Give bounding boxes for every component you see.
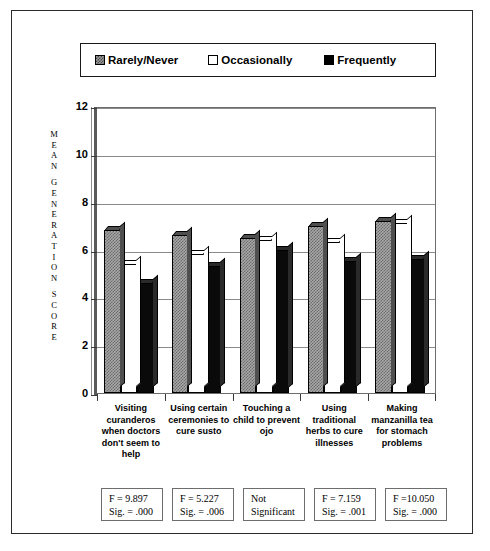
category-label-line: manzanilla tea <box>364 415 440 427</box>
category-label-line: don't seem to <box>93 438 169 450</box>
category-label-line: illnesses <box>296 438 372 450</box>
y-caption-letter: N <box>46 161 62 172</box>
bar-side-face <box>255 229 260 387</box>
category-label-line: for stomach <box>364 426 440 438</box>
x-axis-tick <box>300 394 301 401</box>
significance-box: F = 7.159Sig. = .001 <box>314 488 376 521</box>
legend-item-frequently: Frequently <box>324 54 396 66</box>
y-axis-tick-label: 10 <box>64 148 88 160</box>
f-value-label: F = 9.897 <box>109 492 162 505</box>
sig-value-label: Sig. = .000 <box>393 505 446 518</box>
y-caption-letter: E <box>46 188 62 199</box>
y-caption-letter: C <box>46 300 62 311</box>
x-axis-tick <box>435 394 436 401</box>
sig-value-label: Significant <box>251 505 304 518</box>
legend-label: Frequently <box>337 54 396 66</box>
y-axis-tick-labels: 024681012 <box>62 107 88 394</box>
legend-label: Occasionally <box>221 54 292 66</box>
category-label-line: Making <box>364 403 440 415</box>
category-label-line: ceremonies to <box>161 415 237 427</box>
y-axis-caption: MEANGENERATIONSCORE <box>46 129 62 342</box>
f-value-label: F = 7.159 <box>322 492 375 505</box>
category-label-line: problems <box>364 438 440 450</box>
bar-side-face <box>204 246 209 387</box>
x-axis-tick <box>368 394 369 401</box>
x-axis-category-label: Visitingcuranderoswhen doctorsdon't seem… <box>93 403 169 461</box>
x-axis-category-label: Using certainceremonies tocure susto <box>161 403 237 438</box>
plot-area <box>97 107 436 394</box>
bar-side-face <box>120 222 125 387</box>
bar-side-face <box>187 227 192 387</box>
y-caption-letter: O <box>46 311 62 322</box>
y-caption-letter: A <box>46 150 62 161</box>
sig-value-label: Sig. = .006 <box>180 505 233 518</box>
y-caption-letter: T <box>46 241 62 252</box>
x-axis-tick <box>97 394 98 401</box>
bar-hatch <box>240 238 257 393</box>
category-label-line: herbs to cure <box>296 426 372 438</box>
x-axis-tick <box>233 394 234 401</box>
y-caption-letter: N <box>46 199 62 210</box>
bar-side-face <box>340 234 345 387</box>
bar-group <box>172 108 222 393</box>
category-label-line: cure susto <box>161 426 237 438</box>
f-value-label: F =10.050 <box>393 492 446 505</box>
y-caption-letter: E <box>46 209 62 220</box>
bar-side-face <box>356 253 361 387</box>
chart-frame: Rarely/Never Occasionally Frequently MEA… <box>11 10 473 534</box>
f-value-label: F = 5.227 <box>180 492 233 505</box>
y-caption-letter: N <box>46 273 62 284</box>
x-axis-tick <box>165 394 166 401</box>
category-label-line: when doctors <box>93 426 169 438</box>
bar-side-face <box>424 251 429 387</box>
black-swatch-icon <box>324 55 334 65</box>
y-axis-tick-label: 0 <box>64 387 88 399</box>
y-caption-letter: M <box>46 129 62 140</box>
bar-side-face <box>391 213 396 387</box>
bar-hatch <box>308 226 325 393</box>
y-axis-tick-label: 4 <box>64 291 88 303</box>
y-axis-tick-label: 12 <box>64 100 88 112</box>
y-caption-letter: I <box>46 252 62 263</box>
category-label-line: child to prevent <box>229 415 305 427</box>
significance-box: NotSignificant <box>243 488 305 521</box>
sig-value-label: Sig. = .001 <box>322 505 375 518</box>
bar-hatch <box>375 221 392 393</box>
category-label-line: Using certain <box>161 403 237 415</box>
y-caption-letter: A <box>46 230 62 241</box>
sig-value-label: Sig. = .000 <box>109 505 162 518</box>
y-axis-tick-label: 2 <box>64 339 88 351</box>
bar-side-face <box>220 258 225 387</box>
y-caption-letter: E <box>46 332 62 343</box>
significance-annotations: F = 9.897Sig. = .000F = 5.227Sig. = .006… <box>101 488 449 521</box>
y-caption-letter: E <box>46 140 62 151</box>
bar-side-face <box>272 232 277 387</box>
category-label-line: Touching a <box>229 403 305 415</box>
significance-box: F = 9.897Sig. = .000 <box>101 488 163 521</box>
bar-hatch <box>172 235 189 393</box>
white-swatch-icon <box>208 55 218 65</box>
x-axis-category-labels: Visitingcuranderoswhen doctorsdon't seem… <box>97 403 436 465</box>
category-label-line: curanderos <box>93 415 169 427</box>
category-label-line: Visiting <box>93 403 169 415</box>
bar-side-face <box>153 275 158 387</box>
significance-box: F =10.050Sig. = .000 <box>385 488 447 521</box>
y-caption-letter: G <box>46 177 62 188</box>
category-label-line: help <box>93 449 169 461</box>
bar-group <box>308 108 358 393</box>
y-caption-letter: R <box>46 321 62 332</box>
bar-side-face <box>288 241 293 387</box>
x-axis-category-label: Makingmanzanilla teafor stomachproblems <box>364 403 440 449</box>
x-axis-ticks <box>97 394 436 402</box>
y-axis-tick-label: 6 <box>64 244 88 256</box>
bar-side-face <box>136 256 141 387</box>
significance-box: F = 5.227Sig. = .006 <box>172 488 234 521</box>
f-value-label: Not <box>251 492 304 505</box>
x-axis-category-label: Touching achild to preventojo <box>229 403 305 438</box>
category-label-line: Using <box>296 403 372 415</box>
legend-label: Rarely/Never <box>108 54 178 66</box>
hatch-swatch-icon <box>95 55 105 65</box>
y-caption-letter: S <box>46 289 62 300</box>
bar-group <box>375 108 425 393</box>
category-label-line: traditional <box>296 415 372 427</box>
